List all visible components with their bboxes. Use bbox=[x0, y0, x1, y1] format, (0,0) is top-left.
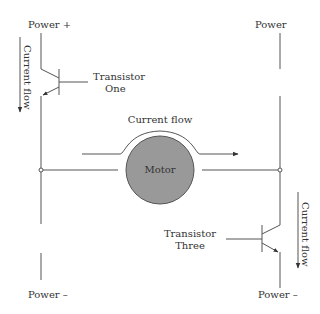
current-flow-center-label: Current flow bbox=[128, 114, 193, 125]
current-flow-right-label: Current flow bbox=[300, 202, 311, 267]
power-minus-right-label: Power – bbox=[258, 289, 298, 300]
left-rail bbox=[41, 33, 59, 280]
transistor-three-label-2: Three bbox=[175, 240, 205, 251]
h-bridge-diagram: Power + Power Transistor One Current flo… bbox=[0, 0, 320, 314]
transistor-one bbox=[59, 69, 88, 95]
transistor-one-label-2: One bbox=[105, 83, 126, 94]
power-plus-left-label: Power + bbox=[28, 19, 71, 30]
right-rail bbox=[262, 33, 280, 288]
power-right-top-label: Power bbox=[255, 19, 287, 30]
transistor-three-label-1: Transistor bbox=[164, 228, 216, 239]
current-flow-left-label: Current flow bbox=[22, 45, 33, 110]
transistor-three bbox=[226, 225, 262, 252]
transistor-one-label-1: Transistor bbox=[93, 71, 145, 82]
left-junction bbox=[39, 168, 43, 172]
right-junction bbox=[278, 168, 282, 172]
motor-label: Motor bbox=[144, 164, 175, 175]
power-minus-left-label: Power – bbox=[28, 289, 68, 300]
